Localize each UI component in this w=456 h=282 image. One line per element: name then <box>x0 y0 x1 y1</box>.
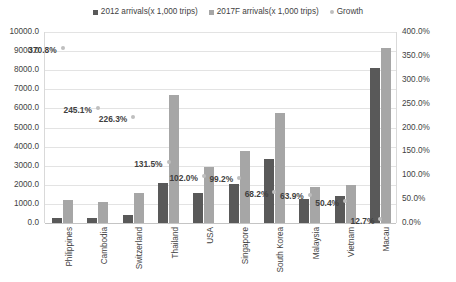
x-axis-category-label: Vietnam <box>348 227 356 257</box>
growth-data-label: 102.0% <box>169 174 200 182</box>
y-tick-label-left: 7000.0 <box>14 85 39 93</box>
y-tick-label-right: 50.0% <box>402 195 425 203</box>
y-tick-label-right: 350.0% <box>402 52 430 60</box>
y-tick-label-right: 0.0% <box>402 219 421 227</box>
y-tick-label-left: 0.0 <box>28 219 39 227</box>
growth-data-label: 12.7% <box>351 217 378 225</box>
chart-container: 2012 arrivals(x 1,000 trips) 2017F arriv… <box>0 0 456 282</box>
legend-label-2012: 2012 arrivals(x 1,000 trips) <box>101 8 198 16</box>
bar-2017f[interactable] <box>169 95 179 223</box>
gridline <box>45 128 396 129</box>
legend-item-2012[interactable]: 2012 arrivals(x 1,000 trips) <box>93 8 198 16</box>
gridline <box>45 32 396 33</box>
bar-2017f[interactable] <box>275 113 285 223</box>
gridline <box>45 70 396 71</box>
y-tick-label-right: 150.0% <box>402 147 430 155</box>
y-tick-label-left: 4000.0 <box>14 143 39 151</box>
y-tick-label-right: 200.0% <box>402 124 430 132</box>
y-tick-label-right: 250.0% <box>402 100 430 108</box>
chart-legend: 2012 arrivals(x 1,000 trips) 2017F arriv… <box>0 8 456 16</box>
growth-data-label: 245.1% <box>64 106 95 114</box>
bar-2017f[interactable] <box>240 151 250 223</box>
legend-swatch-2012-icon <box>93 10 98 15</box>
y-tick-label-left: 1000.0 <box>14 200 39 208</box>
x-axis-category-label: Singapore <box>242 227 250 264</box>
legend-item-2017f[interactable]: 2017F arrivals(x 1,000 trips) <box>209 8 319 16</box>
x-axis-category-label: Thailand <box>172 227 180 258</box>
x-axis-category-label: Macau <box>383 227 391 252</box>
bar-2012[interactable] <box>52 218 62 223</box>
growth-marker[interactable] <box>237 176 241 180</box>
bar-2012[interactable] <box>370 68 380 223</box>
bar-2012[interactable] <box>87 218 97 223</box>
growth-data-label: 99.2% <box>209 175 236 183</box>
growth-data-label: 370.8% <box>28 46 59 54</box>
plot-area: 370.8%245.1%226.3%131.5%102.0%99.2%68.2%… <box>44 32 397 223</box>
y-tick-label-left: 8000.0 <box>14 66 39 74</box>
bar-2012[interactable] <box>193 193 203 223</box>
y-tick-label-left: 2000.0 <box>14 181 39 189</box>
gridline <box>45 51 396 52</box>
y-tick-label-left: 6000.0 <box>14 104 39 112</box>
growth-marker[interactable] <box>202 174 206 178</box>
bar-2012[interactable] <box>229 184 239 223</box>
growth-marker[interactable] <box>378 217 382 221</box>
y-tick-label-right: 400.0% <box>402 28 430 36</box>
growth-marker[interactable] <box>131 115 135 119</box>
y-tick-label-left: 5000.0 <box>14 124 39 132</box>
legend-label-growth: Growth <box>337 8 363 16</box>
bar-2012[interactable] <box>158 183 168 223</box>
growth-data-label: 131.5% <box>134 160 165 168</box>
x-axis-category-label: South Korea <box>277 227 285 273</box>
gridline <box>45 89 396 90</box>
growth-marker[interactable] <box>343 199 347 203</box>
y-tick-label-left: 10000.0 <box>9 28 39 36</box>
gridline <box>45 185 396 186</box>
bar-2017f[interactable] <box>381 48 391 223</box>
growth-data-label: 68.2% <box>245 190 272 198</box>
growth-marker[interactable] <box>308 193 312 197</box>
gridline <box>45 166 396 167</box>
bar-2017f[interactable] <box>134 193 144 223</box>
growth-data-label: 226.3% <box>99 115 130 123</box>
growth-data-label: 50.4% <box>315 199 342 207</box>
bar-2012[interactable] <box>299 199 309 223</box>
bar-2017f[interactable] <box>98 202 108 223</box>
growth-marker[interactable] <box>167 160 171 164</box>
growth-marker[interactable] <box>96 106 100 110</box>
y-tick-label-right: 100.0% <box>402 171 430 179</box>
x-axis-category-label: Cambodia <box>101 227 109 264</box>
y-tick-label-right: 300.0% <box>402 76 430 84</box>
growth-data-label: 63.9% <box>280 192 307 200</box>
legend-label-2017f: 2017F arrivals(x 1,000 trips) <box>217 8 319 16</box>
legend-swatch-growth-icon <box>330 10 334 14</box>
bar-2012[interactable] <box>123 215 133 223</box>
legend-item-growth[interactable]: Growth <box>330 8 363 16</box>
gridline <box>45 223 396 224</box>
gridline <box>45 147 396 148</box>
legend-swatch-2017f-icon <box>209 10 214 15</box>
x-axis-category-label: Philippines <box>66 227 74 267</box>
x-axis-category-label: USA <box>207 227 215 244</box>
growth-marker[interactable] <box>272 190 276 194</box>
x-axis-category-label: Switzerland <box>136 227 144 269</box>
growth-marker[interactable] <box>61 46 65 50</box>
y-tick-label-left: 3000.0 <box>14 162 39 170</box>
bar-2017f[interactable] <box>63 200 73 223</box>
x-axis-category-label: Malaysia <box>313 227 321 259</box>
